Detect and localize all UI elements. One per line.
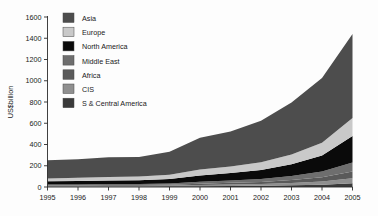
legend-swatch-africa [63,70,74,80]
x-tick-label: 2004 [314,193,330,202]
stacked-area-chart: 02004006008001000120014001600 1995199619… [0,0,378,216]
x-tick-label: 2003 [284,193,300,202]
x-tick-label: 1996 [70,193,86,202]
legend-label-europe: Europe [82,28,105,37]
x-tick-label: 1995 [40,193,56,202]
y-tick-label: 1200 [26,55,42,64]
legend-label-cis: CIS [82,85,94,94]
x-tick-label: 1998 [131,193,147,202]
x-tick-label: 2005 [345,193,361,202]
legend-swatch-europe [63,27,74,37]
x-tick-label: 2000 [192,193,208,202]
legend-swatch-middle-east [63,56,74,66]
y-tick-label: 1000 [26,76,42,85]
x-tick-label: 1999 [162,193,178,202]
x-tick-label: 2001 [223,193,239,202]
legend-swatch-asia [63,13,74,23]
legend-swatch-north-america [63,41,74,51]
y-tick-label: 1600 [26,13,42,22]
legend-label-middle-east: Middle East [82,57,120,66]
y-tick-label: 0 [38,183,42,192]
legend-swatch-cis [63,84,74,94]
legend-label-s-central-america: S & Central America [82,99,147,108]
y-tick-label: 1400 [26,34,42,43]
y-tick-label: 600 [30,119,42,128]
legend-label-north-america: North America [82,42,128,51]
legend-swatch-s-central-america [63,98,74,108]
x-tick-label: 2002 [253,193,269,202]
legend-label-africa: Africa [82,71,100,80]
legend-label-asia: Asia [82,14,96,23]
y-axis-title: US$billion [6,86,15,118]
y-tick-label: 400 [30,140,42,149]
y-tick-label: 200 [30,161,42,170]
y-tick-label: 800 [30,98,42,107]
chart-container: 02004006008001000120014001600 1995199619… [0,0,378,216]
x-tick-label: 1997 [101,193,117,202]
